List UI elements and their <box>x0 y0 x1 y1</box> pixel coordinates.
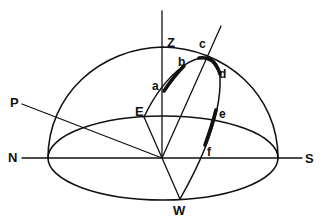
label-west: W <box>173 203 186 218</box>
label-c: c <box>199 37 206 51</box>
sky-dome-outline <box>48 47 278 158</box>
label-a: a <box>152 79 159 93</box>
west-radius-line <box>162 158 180 199</box>
segment-a-b <box>164 66 184 91</box>
segment-e-f <box>205 110 216 145</box>
label-e: e <box>219 107 226 121</box>
label-north: N <box>8 150 17 165</box>
celestial-sphere-diagram: Z c b d a P E e f N S W <box>0 0 324 224</box>
label-d: d <box>219 67 226 81</box>
label-f: f <box>207 145 212 159</box>
label-pole: P <box>10 95 19 110</box>
label-b: b <box>178 55 185 69</box>
label-east: E <box>135 104 144 119</box>
label-south: S <box>305 151 314 166</box>
label-zenith: Z <box>167 35 175 50</box>
